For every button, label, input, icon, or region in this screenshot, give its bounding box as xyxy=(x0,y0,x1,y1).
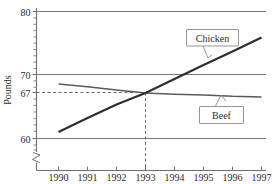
beef-leader-line xyxy=(215,95,226,107)
x-tick-label-1993: 1993 xyxy=(136,172,156,183)
x-tick-label-1992: 1992 xyxy=(107,172,127,183)
y-tick-label-67: 67 xyxy=(21,88,31,99)
x-tick-label-1991: 1991 xyxy=(78,172,98,183)
chicken-callout[interactable]: Chicken xyxy=(187,30,239,59)
x-tick-label-1990: 1990 xyxy=(49,172,69,183)
y-tick-label-80: 80 xyxy=(21,7,31,18)
x-tick-label-1994: 1994 xyxy=(165,172,185,183)
beef-callout-label: Beef xyxy=(212,110,232,121)
x-tick-label-1997: 1997 xyxy=(252,172,272,183)
y-tick-label-60: 60 xyxy=(21,134,31,145)
chart-figure: Chicken Beef 80 70 67 60 Pounds 1990 199… xyxy=(0,0,274,184)
x-axis xyxy=(37,167,267,171)
chicken-callout-label: Chicken xyxy=(196,33,229,44)
y-tick-label-70: 70 xyxy=(21,70,31,81)
x-tick-label-1995: 1995 xyxy=(194,172,214,183)
y-axis-break-icon xyxy=(33,153,41,163)
intersection-guides xyxy=(37,93,146,171)
x-tick-label-1996: 1996 xyxy=(223,172,243,183)
y-axis xyxy=(33,8,41,171)
line-chart-canvas: Chicken Beef 80 70 67 60 Pounds 1990 199… xyxy=(0,0,274,184)
y-axis-title: Pounds xyxy=(2,75,13,105)
beef-callout[interactable]: Beef xyxy=(200,95,244,124)
chicken-leader-line xyxy=(203,46,212,58)
